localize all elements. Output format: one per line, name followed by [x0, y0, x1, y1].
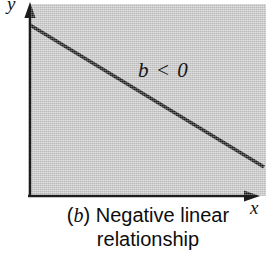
- plot-area: [30, 4, 266, 196]
- figure: y x b < 0 (b) Negative linear relationsh…: [0, 0, 266, 255]
- caption-line-1: (b) Negative linear: [30, 203, 266, 227]
- caption-open-paren: (: [67, 204, 74, 226]
- figure-caption: (b) Negative linear relationship: [30, 203, 266, 251]
- caption-index-letter: b: [74, 204, 84, 226]
- caption-rest-line1: ) Negative linear: [84, 204, 230, 226]
- slope-annotation: b < 0: [138, 58, 189, 83]
- y-axis-label: y: [7, 0, 15, 13]
- caption-line-2: relationship: [30, 227, 266, 251]
